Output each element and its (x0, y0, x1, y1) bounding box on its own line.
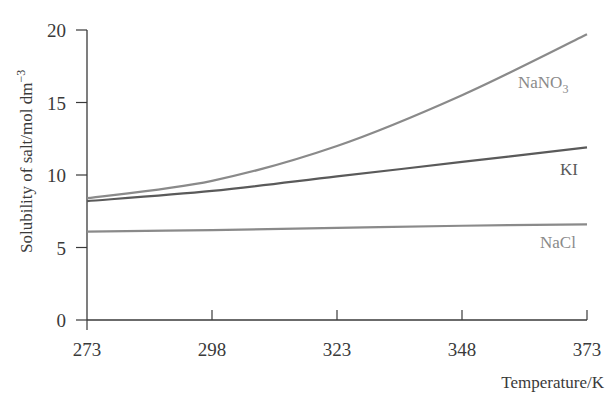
y-tick-label: 5 (57, 238, 67, 259)
y-tick-label: 20 (47, 20, 66, 41)
series-label-nano3: NaNO3 (518, 73, 568, 96)
x-tick-label: 273 (73, 339, 102, 360)
y-tick-label: 15 (47, 93, 66, 114)
x-ticks: 273298323348373 (73, 310, 602, 360)
y-tick-label: 10 (47, 165, 66, 186)
series-label-nacl: NaCl (540, 233, 576, 252)
x-tick-label: 373 (573, 339, 602, 360)
solubility-chart: 05101520 273298323348373 NaNO3KINaCl Tem… (0, 0, 611, 406)
series-line-ki (87, 147, 587, 201)
y-tick-label: 0 (57, 310, 67, 331)
series-line-nacl (87, 224, 587, 231)
y-axis-title: Solubility of salt/mol dm−3 (14, 70, 36, 253)
x-tick-label: 323 (323, 339, 352, 360)
x-axis-title: Temperature/K (501, 373, 604, 392)
x-tick-label: 348 (448, 339, 477, 360)
y-ticks: 05101520 (47, 20, 87, 331)
axes (87, 30, 587, 320)
series-line-nano3 (87, 34, 587, 198)
series-lines (87, 34, 587, 231)
x-tick-label: 298 (198, 339, 227, 360)
series-label-ki: KI (560, 160, 578, 179)
